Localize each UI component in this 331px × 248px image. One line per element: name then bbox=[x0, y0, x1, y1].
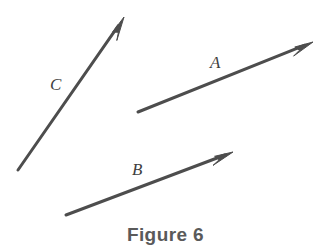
figure-6-container: C A B Figure 6 bbox=[0, 0, 331, 248]
vector-diagram-canvas bbox=[0, 0, 331, 248]
vector-arrow-c bbox=[18, 17, 124, 170]
vector-b-shaft bbox=[66, 155, 225, 215]
vector-c-arrowhead bbox=[113, 17, 124, 41]
vector-c-shaft bbox=[18, 26, 118, 170]
vector-a-shaft bbox=[138, 45, 305, 112]
vector-label-b: B bbox=[132, 161, 142, 178]
vector-arrow-b bbox=[66, 152, 233, 215]
vector-label-a: A bbox=[210, 54, 220, 71]
vector-label-c: C bbox=[50, 76, 61, 93]
vector-arrow-a bbox=[138, 42, 313, 112]
figure-caption: Figure 6 bbox=[0, 224, 331, 246]
